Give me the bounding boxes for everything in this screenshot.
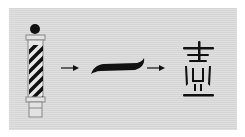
arrow-right-icon: [61, 65, 79, 71]
arrow-right-icon: [147, 65, 165, 71]
evolution-diagram: [9, 8, 237, 130]
chinese-character-icon: [183, 41, 214, 97]
brush-stroke-icon: [91, 58, 144, 74]
diagram-panel: [9, 8, 237, 130]
barber-pole-icon: [23, 24, 49, 118]
